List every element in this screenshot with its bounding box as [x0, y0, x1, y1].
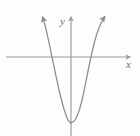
y-axis-label: y [59, 15, 65, 27]
parabola-left-branch [43, 17, 71, 123]
parabola-graph-svg: y x [0, 0, 140, 136]
x-axis-label: x [125, 58, 131, 70]
figure-container: · · · · y x [0, 0, 140, 136]
parabola-right-branch [71, 17, 105, 123]
